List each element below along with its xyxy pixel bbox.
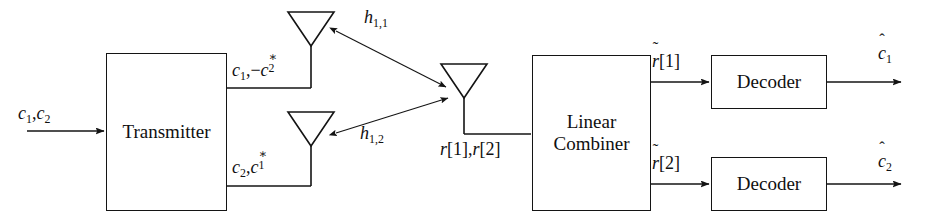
channel-link-2 bbox=[336, 98, 448, 133]
tx-antenna-2-icon bbox=[288, 112, 334, 186]
block-diagram: Transmitter Linear Combiner Decoder Deco… bbox=[0, 0, 929, 222]
decoder-2-block: Decoder bbox=[711, 157, 827, 211]
combined-signal-1-label: ˜r[1] bbox=[652, 52, 680, 70]
tx1-separator: ,− bbox=[246, 60, 261, 80]
h12-base: h bbox=[360, 123, 369, 143]
tx-antenna-2-stream-label: c2,c∗1 bbox=[232, 155, 270, 179]
tilde-accent-icon: ˜ bbox=[653, 142, 659, 159]
hat-accent-icon: ˆ bbox=[879, 140, 885, 157]
hat-accent-icon: ˆ bbox=[879, 32, 885, 49]
rx-r1-index: [1] bbox=[447, 139, 468, 159]
tx2-c1-supsub: ∗1 bbox=[258, 155, 269, 173]
h12-sub: 1,2 bbox=[369, 132, 384, 146]
received-signal-label: r[1],r[2] bbox=[440, 140, 501, 158]
channel-gain-h12-label: h1,2 bbox=[360, 124, 384, 145]
linear-combiner-block: Linear Combiner bbox=[532, 55, 651, 211]
transmitter-label: Transmitter bbox=[123, 121, 211, 143]
tx2-c2-base: c bbox=[232, 157, 240, 177]
h11-base: h bbox=[364, 7, 373, 27]
rx-r1-base: r bbox=[440, 139, 447, 159]
combined-signal-2-label: ˜r[2] bbox=[652, 154, 680, 172]
rt1-index: [1] bbox=[659, 51, 680, 71]
rt2-base-accented: ˜r bbox=[652, 154, 659, 172]
chat1-sub: 1 bbox=[886, 52, 892, 66]
rx-r2-base: r bbox=[473, 139, 480, 159]
tx1-c2-base: c bbox=[261, 60, 269, 80]
tx2-c1-base: c bbox=[250, 157, 258, 177]
tx-antenna-1-icon bbox=[288, 12, 334, 88]
tilde-accent-icon: ˜ bbox=[653, 40, 659, 57]
tx-antenna-1-stream-label: c1,−c∗2 bbox=[232, 58, 280, 82]
chat2-base-accented: ˆc bbox=[878, 152, 886, 170]
tx2-c1-sub: 1 bbox=[258, 160, 264, 172]
estimate-1-label: ˆc1 bbox=[878, 44, 892, 65]
tx1-c1-base: c bbox=[232, 60, 240, 80]
tx1-c2-sub: 2 bbox=[269, 63, 275, 75]
decoder-2-label: Decoder bbox=[737, 173, 801, 195]
h11-sub: 1,1 bbox=[373, 16, 388, 30]
tx1-c2-supsub: ∗2 bbox=[269, 58, 280, 76]
rt1-base-accented: ˜r bbox=[652, 52, 659, 70]
rx-antenna-icon bbox=[441, 64, 531, 134]
channel-link-1 bbox=[336, 31, 446, 87]
rt2-index: [2] bbox=[659, 153, 680, 173]
rx-r2-index: [2] bbox=[480, 139, 501, 159]
chat2-sub: 2 bbox=[886, 160, 892, 174]
input-symbols-label: c1,c2 bbox=[18, 104, 50, 125]
estimate-2-label: ˆc2 bbox=[878, 152, 892, 173]
decoder-1-label: Decoder bbox=[737, 71, 801, 93]
input-c2-sub: 2 bbox=[44, 112, 50, 126]
channel-gain-h11-label: h1,1 bbox=[364, 8, 388, 29]
transmitter-block: Transmitter bbox=[106, 53, 227, 211]
decoder-1-block: Decoder bbox=[711, 55, 827, 109]
linear-combiner-label: Linear Combiner bbox=[554, 111, 630, 156]
chat1-base-accented: ˆc bbox=[878, 44, 886, 62]
input-c1-base: c bbox=[18, 103, 26, 123]
